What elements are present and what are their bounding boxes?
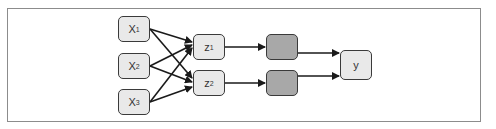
node-label: y bbox=[353, 59, 359, 71]
edge-x1-z2 bbox=[150, 29, 192, 78]
output-node-y: y bbox=[340, 50, 372, 80]
node-subscript: 1 bbox=[210, 44, 214, 51]
node-label: X bbox=[128, 60, 135, 72]
input-node-x1: X1 bbox=[118, 16, 150, 42]
activation-node-1 bbox=[266, 34, 298, 60]
hidden-node-z2: z2 bbox=[193, 70, 225, 96]
input-node-x3: X3 bbox=[118, 89, 150, 115]
edges-layer bbox=[0, 0, 496, 129]
node-label: X bbox=[128, 96, 135, 108]
node-subscript: 1 bbox=[136, 26, 140, 33]
input-node-x2: X2 bbox=[118, 53, 150, 79]
node-subscript: 2 bbox=[136, 63, 140, 70]
node-subscript: 3 bbox=[136, 99, 140, 106]
node-subscript: 2 bbox=[210, 80, 214, 87]
hidden-node-z1: z1 bbox=[193, 34, 225, 60]
node-label: X bbox=[128, 23, 135, 35]
activation-node-2 bbox=[266, 70, 298, 96]
